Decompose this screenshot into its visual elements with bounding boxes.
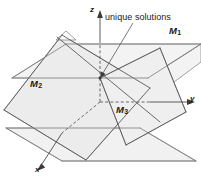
z-axis-label: z	[90, 6, 94, 14]
plane-label-m2: M2	[30, 79, 42, 89]
intersection-point-marker	[99, 77, 102, 80]
plane-label-m1-letter: M	[169, 25, 177, 36]
plane-label-m3-letter: M	[116, 104, 124, 115]
x-axis-label: x	[35, 166, 39, 174]
plane-label-m2-letter: M	[30, 78, 38, 89]
plane-label-m3-subscript: 3	[124, 108, 128, 115]
z-axis-arrow-icon	[97, 10, 103, 18]
unique-solutions-annotation: unique solutions	[105, 13, 171, 22]
figure-container: M1 M2 M3 z y x unique solutions	[0, 0, 201, 183]
plane-label-m1: M1	[169, 26, 181, 36]
plane-label-m1-subscript: 1	[177, 29, 181, 36]
plane-label-m2-subscript: 2	[38, 82, 42, 89]
plane-label-m3: M3	[116, 105, 128, 115]
y-axis-label: y	[190, 95, 194, 103]
